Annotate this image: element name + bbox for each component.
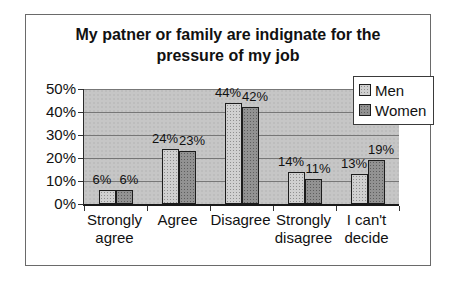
data-label-women-4: 11% — [305, 161, 330, 176]
y-axis-label-40pct: 40% — [34, 104, 76, 120]
chart-title: My patner or family are indignate for th… — [26, 24, 430, 66]
x-axis-tick — [399, 206, 400, 211]
chart-frame: My patner or family are indignate for th… — [25, 14, 431, 266]
y-axis-tick — [78, 158, 83, 159]
y-axis-tick — [78, 112, 83, 113]
bar-men-2 — [162, 149, 179, 204]
y-axis-label-10pct: 10% — [34, 173, 76, 189]
men-series-swatch — [359, 84, 371, 96]
y-axis-tick — [78, 135, 83, 136]
y-axis-label-20pct: 20% — [34, 150, 76, 166]
chart-image: My patner or family are indignate for th… — [0, 0, 455, 287]
y-axis-tick — [78, 204, 83, 205]
y-axis-label-0pct: 0% — [34, 196, 76, 212]
category-label-2: Agree — [146, 211, 209, 247]
data-label-women-1: 6% — [120, 172, 139, 187]
women-series-swatch — [359, 104, 371, 116]
data-label-men-2: 24% — [152, 131, 178, 146]
bar-men-1 — [99, 190, 116, 204]
chart-title-text: My patner or family are indignate for th… — [63, 24, 393, 66]
bar-women-2 — [179, 151, 196, 204]
bar-women-5 — [368, 160, 385, 204]
bar-women-4 — [305, 179, 322, 204]
legend-item-men: Men — [359, 80, 426, 100]
data-label-women-5: 19% — [368, 142, 394, 157]
bar-men-5 — [351, 174, 368, 204]
category-label-1: Strongly agree — [83, 211, 146, 247]
data-label-women-2: 23% — [179, 133, 205, 148]
legend-label-women: Women — [375, 102, 426, 119]
legend-label-men: Men — [375, 82, 404, 99]
y-axis-label-30pct: 30% — [34, 127, 76, 143]
data-label-men-3: 44% — [215, 85, 241, 100]
y-axis-tick — [78, 181, 83, 182]
y-axis-label-50pct: 50% — [34, 81, 76, 97]
category-label-4: Strongly disagree — [272, 211, 335, 247]
bar-men-3 — [225, 103, 242, 204]
bar-men-4 — [288, 172, 305, 204]
legend-item-women: Women — [359, 100, 426, 120]
bar-women-1 — [116, 190, 133, 204]
data-label-men-1: 6% — [93, 172, 112, 187]
y-axis-tick — [78, 89, 83, 90]
data-label-men-5: 13% — [341, 156, 367, 171]
data-label-women-3: 42% — [242, 89, 268, 104]
plot-area: 0%10%20%30%40%50%6%6%24%23%44%42%14%11%1… — [83, 89, 399, 206]
data-label-men-4: 14% — [278, 154, 304, 169]
category-label-3: Disagree — [209, 211, 272, 247]
legend: Men Women — [353, 76, 434, 125]
category-label-5: I can't decide — [335, 211, 398, 247]
x-axis-category-labels: Strongly agreeAgreeDisagreeStrongly disa… — [83, 211, 398, 247]
bar-women-3 — [242, 107, 259, 204]
